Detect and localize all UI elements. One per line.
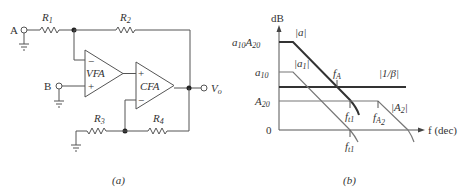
x-axis-label: f (dec) xyxy=(428,124,457,137)
input-b-terminal xyxy=(56,83,62,89)
r4-label: R4 xyxy=(152,112,164,126)
y-tick-a20: A20 xyxy=(254,95,270,109)
y-axis-label: dB xyxy=(271,12,284,24)
bode-plot: dB f (dec) a10A20 a10 A20 0 |1/β| |a| |a… xyxy=(232,12,457,187)
output-terminal xyxy=(201,85,207,91)
input-a-label: A xyxy=(10,24,18,36)
label-a: |a| xyxy=(295,26,307,38)
ground-icon xyxy=(19,33,29,50)
caption-b: (b) xyxy=(343,174,356,187)
curve-a xyxy=(279,42,359,115)
circuit-diagram: A R1 R2 − + VFA B + − CFA Vo xyxy=(10,11,222,187)
label-fA: fA xyxy=(333,67,341,81)
y-tick-zero: 0 xyxy=(266,124,272,136)
label-ft1-lower: ft1 xyxy=(345,140,354,154)
ground-icon xyxy=(54,89,64,107)
caption-a: (a) xyxy=(112,174,125,187)
label-inverse-beta: |1/β| xyxy=(379,67,399,79)
ground-icon xyxy=(71,145,81,151)
resistor-r1 xyxy=(40,27,73,33)
svg-text:−: − xyxy=(88,55,94,67)
resistor-r4 xyxy=(125,88,189,134)
curve-a1 xyxy=(279,72,358,142)
label-A2: |A2| xyxy=(391,101,408,115)
r1-label: R1 xyxy=(41,11,53,25)
input-a-terminal xyxy=(21,27,27,33)
label-a1: |a1| xyxy=(294,57,310,71)
y-tick-a10: a10 xyxy=(255,66,269,80)
x-axis-arrow-icon xyxy=(418,128,425,133)
svg-text:−: − xyxy=(138,94,144,106)
resistor-r2 xyxy=(116,27,190,88)
r2-label: R2 xyxy=(119,11,131,25)
svg-text:+: + xyxy=(138,67,144,79)
output-label: Vo xyxy=(211,82,222,96)
label-ft1-upper: ft1 xyxy=(345,110,354,124)
y-axis-arrow-icon xyxy=(277,25,282,32)
input-b-label: B xyxy=(44,80,51,92)
label-fA2: fA2 xyxy=(373,111,385,127)
y-tick-a10a20: a10A20 xyxy=(232,36,260,50)
svg-text:+: + xyxy=(88,80,94,92)
figure: A R1 R2 − + VFA B + − CFA Vo xyxy=(0,0,466,193)
vfa-label: VFA xyxy=(86,67,105,79)
r3-label: R3 xyxy=(93,112,105,126)
resistor-r3 xyxy=(76,128,125,145)
cfa-label: CFA xyxy=(140,80,160,92)
